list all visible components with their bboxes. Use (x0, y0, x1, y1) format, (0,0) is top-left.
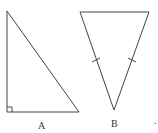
geometry-diagram: A B . (0, 0, 158, 133)
right-angle-marker (7, 107, 12, 112)
triangle-a (7, 11, 79, 112)
triangle-b (80, 12, 149, 110)
triangle-a-label: A (38, 120, 46, 131)
triangle-b-outline (80, 12, 149, 110)
stray-mark: . (154, 115, 157, 126)
triangle-b-label: B (111, 118, 118, 129)
triangle-a-outline (7, 11, 79, 112)
